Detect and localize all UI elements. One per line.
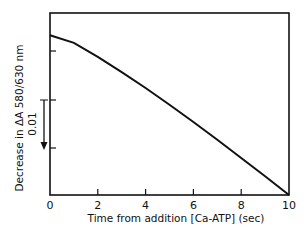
x-tick-label: 6 xyxy=(190,199,197,212)
x-axis-label: Time from addition [Ca-ATP] (sec) xyxy=(87,212,265,224)
x-axis-ticks xyxy=(98,189,241,195)
x-tick-label: 0 xyxy=(47,199,54,212)
x-tick-label: 8 xyxy=(238,199,245,212)
x-tick-label: 10 xyxy=(282,199,296,212)
scale-bar-label: 0.01 xyxy=(26,112,38,135)
x-axis-tick-labels: 0246810 xyxy=(47,199,297,212)
x-tick-label: 2 xyxy=(94,199,101,212)
line-chart: 0246810 0.01 Decrease in ΔA 580/630 nm T… xyxy=(0,0,307,240)
data-line xyxy=(50,35,289,195)
arrow-down-icon xyxy=(41,142,48,150)
y-axis-ticks xyxy=(50,51,56,148)
y-axis-label: Decrease in ΔA 580/630 nm xyxy=(13,44,25,191)
scale-bar xyxy=(40,100,48,150)
x-tick-label: 4 xyxy=(142,199,149,212)
